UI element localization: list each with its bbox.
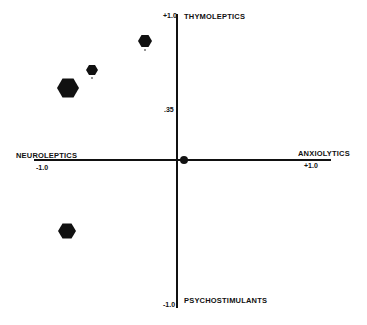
hexagon-marker-1 — [138, 35, 152, 47]
mid-axis-tick: .35 — [164, 106, 174, 113]
hexagon-marker-2 — [86, 65, 98, 75]
bottom-axis-label: PSYCHOSTIMULANTS — [184, 296, 267, 305]
hexagon-marker-3 — [57, 79, 79, 98]
left-axis-label: NEUROLEPTICS — [16, 151, 77, 160]
top-axis-tick: +1.0 — [163, 12, 177, 19]
right-axis-tick: +1.0 — [304, 162, 318, 169]
top-axis-label: THYMOLEPTICS — [184, 12, 245, 21]
dot-marker-4 — [180, 156, 188, 164]
marker-1-dot — [144, 49, 146, 51]
bottom-axis-tick: -1.0 — [163, 301, 175, 308]
left-axis-tick: -1.0 — [36, 164, 48, 171]
right-axis-label: ANXIOLYTICS — [298, 149, 350, 158]
marker-2-dot — [91, 77, 93, 79]
hexagon-marker-5 — [58, 224, 76, 239]
